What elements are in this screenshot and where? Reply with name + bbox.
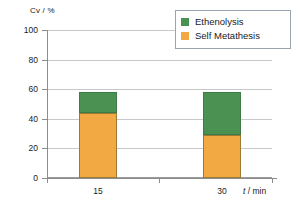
- y-tick-mark-80: [42, 60, 47, 61]
- y-tick-label-0: 0: [33, 173, 38, 183]
- x-axis-title: t / min: [243, 186, 266, 196]
- legend-label-ethenolysis: Ethenolysis: [195, 17, 244, 27]
- legend-swatch-ethenolysis: [181, 18, 189, 26]
- x-tick-mark-mid: [159, 178, 160, 183]
- x-tick-mark-right: [272, 178, 273, 183]
- gridline-60: [47, 89, 272, 90]
- y-tick-mark-100: [42, 30, 47, 31]
- stacked-bar-chart: Cv / % 100 80 60 40 20 0 15 30: [0, 0, 299, 209]
- plot-area: [47, 30, 272, 178]
- x-tick-label-30: 30: [217, 186, 226, 196]
- y-tick-label-60: 60: [29, 84, 38, 94]
- bar-segment-self-metathesis-15[interactable]: [79, 113, 117, 178]
- x-tick-mark-left: [47, 178, 48, 183]
- bar-group-15[interactable]: [79, 92, 117, 178]
- y-tick-label-100: 100: [24, 25, 38, 35]
- legend-label-self-metathesis: Self Metathesis: [195, 31, 260, 41]
- y-tick-mark-40: [42, 119, 47, 120]
- bar-segment-self-metathesis-30[interactable]: [203, 135, 241, 178]
- legend-swatch-self-metathesis: [181, 32, 189, 40]
- y-tick-mark-60: [42, 89, 47, 90]
- y-axis-title: Cv / %: [30, 6, 55, 15]
- y-tick-label-40: 40: [29, 114, 38, 124]
- y-axis-line: [47, 30, 48, 179]
- gridline-80: [47, 60, 272, 61]
- y-tick-mark-20: [42, 148, 47, 149]
- bar-segment-ethenolysis-30[interactable]: [203, 92, 241, 135]
- x-tick-label-15: 15: [93, 186, 102, 196]
- legend-item-self-metathesis[interactable]: Self Metathesis: [181, 29, 285, 43]
- x-axis-title-unit: / min: [245, 186, 266, 196]
- bar-segment-ethenolysis-15[interactable]: [79, 92, 117, 113]
- chart-legend: Ethenolysis Self Metathesis: [175, 10, 291, 49]
- bar-group-30[interactable]: [203, 92, 241, 178]
- y-tick-label-80: 80: [29, 55, 38, 65]
- legend-item-ethenolysis[interactable]: Ethenolysis: [181, 15, 285, 29]
- y-tick-label-20: 20: [29, 143, 38, 153]
